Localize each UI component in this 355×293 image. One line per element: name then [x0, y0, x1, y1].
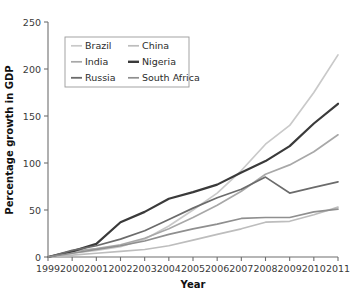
chart-canvas: 050100150200250 199920002001200220032004…: [0, 0, 355, 293]
x-tick-label: 2008: [253, 263, 277, 274]
x-axis-title: Year: [180, 279, 206, 290]
series-line-nigeria: [48, 104, 338, 257]
y-tick-label: 50: [29, 205, 41, 216]
series-line-india: [48, 135, 338, 257]
x-tick-label: 2006: [205, 263, 229, 274]
legend-label-brazil: Brazil: [85, 40, 112, 51]
chart-legend: BrazilChinaIndiaNigeriaRussiaSouth Afric…: [65, 37, 200, 87]
x-tick-label: 1999: [36, 263, 60, 274]
y-tick-label: 250: [23, 17, 41, 28]
y-axis-title: Percentage growth in GDP: [4, 65, 15, 214]
legend-label-russia: Russia: [85, 72, 116, 83]
x-tick-label: 2003: [133, 263, 157, 274]
y-tick-label: 100: [23, 158, 41, 169]
x-tick-label: 2000: [60, 263, 84, 274]
legend-label-china: China: [142, 40, 169, 51]
x-tick-label: 2002: [108, 263, 132, 274]
legend-label-south-africa: South Africa: [142, 72, 200, 83]
y-tick-label: 0: [35, 252, 41, 263]
x-tick-label: 2001: [84, 263, 108, 274]
x-tick-label: 2007: [229, 263, 253, 274]
x-axis: 1999200020012002200320042005200620072008…: [36, 257, 350, 274]
series-line-south-africa: [48, 209, 338, 257]
y-tick-label: 150: [23, 111, 41, 122]
legend-label-nigeria: Nigeria: [142, 56, 176, 67]
y-axis: 050100150200250: [23, 17, 48, 263]
x-tick-label: 2011: [326, 263, 350, 274]
x-tick-label: 2005: [181, 263, 205, 274]
x-tick-label: 2009: [278, 263, 302, 274]
x-tick-label: 2010: [302, 263, 326, 274]
line-chart: 050100150200250 199920002001200220032004…: [0, 0, 355, 293]
x-tick-label: 2004: [157, 263, 181, 274]
legend-label-india: India: [85, 56, 108, 67]
y-tick-label: 200: [23, 64, 41, 75]
